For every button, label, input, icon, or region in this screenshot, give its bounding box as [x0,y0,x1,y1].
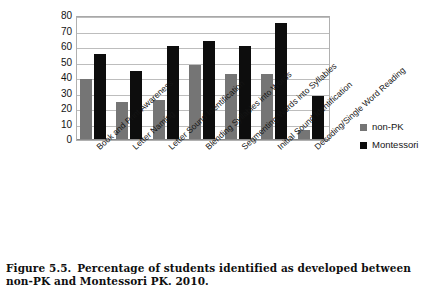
legend: non-PK Montessori [360,118,440,154]
bar-montessori [167,46,179,139]
legend-item-montessori: Montessori [360,136,440,154]
y-axis-tick-label: 80 [61,11,72,21]
bar-montessori [203,41,215,139]
bar-group [77,15,113,139]
y-axis-tick-label: 30 [61,89,72,99]
y-axis-tick-label: 40 [61,73,72,83]
y-axis-tick-label: 70 [61,27,72,37]
y-axis-tick-label: 60 [61,42,72,52]
bar-montessori [239,46,251,139]
bar-montessori [94,54,106,139]
y-axis-tick-label: 10 [61,120,72,130]
figure-caption: Figure 5.5.Percentage of students identi… [6,262,436,288]
y-axis: 01020304050607080 [46,16,72,141]
legend-label: non-PK [372,122,404,132]
x-axis-category-labels: Book and Print AwarenessLetter NamingLet… [0,141,442,249]
y-axis-tick-label: 20 [61,104,72,114]
figure-chart: 01020304050607080 Book and Print Awarene… [0,0,442,250]
legend-swatch-icon [360,124,367,131]
legend-label: Montessori [372,140,418,150]
figure-number: Figure 5.5. [6,262,71,274]
bar-non-pk [80,79,92,139]
y-axis-tick-label: 50 [61,58,72,68]
legend-swatch-icon [360,142,367,149]
legend-item-non-pk: non-PK [360,118,440,136]
